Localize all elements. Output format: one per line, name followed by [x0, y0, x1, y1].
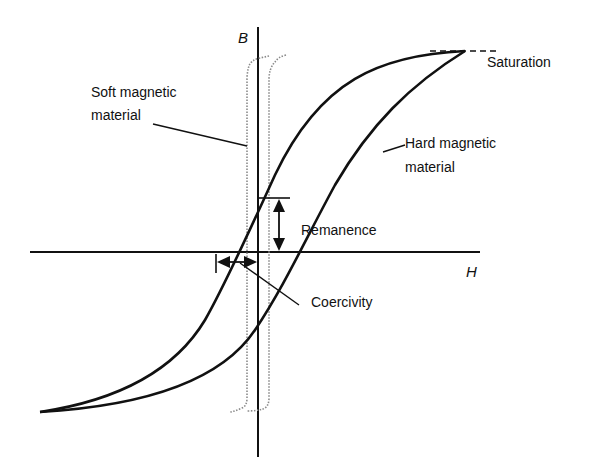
remanence-label: Remanence — [301, 222, 377, 238]
soft-material-label-line2: material — [91, 107, 141, 123]
soft-loop-left — [230, 56, 269, 412]
soft-material-leader — [153, 124, 247, 146]
remanence-arrow-down-icon — [273, 238, 285, 251]
remanence-arrow-up-icon — [273, 199, 285, 212]
b-axis-label: B — [238, 29, 248, 46]
soft-loop-right — [247, 55, 286, 411]
coercivity-arrow-right-icon — [244, 256, 257, 268]
hard-material-label-line2: material — [405, 159, 455, 175]
coercivity-label: Coercivity — [311, 294, 372, 310]
hard-loop-lower-branch — [40, 51, 465, 412]
hysteresis-diagram: B H Saturation Soft magnetic material Ha… — [0, 0, 602, 473]
soft-material-label-line1: Soft magnetic — [91, 84, 177, 100]
hard-material-leader — [383, 145, 405, 152]
saturation-label: Saturation — [487, 54, 551, 70]
coercivity-arrow-left-icon — [217, 256, 230, 268]
h-axis-label: H — [466, 263, 477, 280]
hard-material-label-line1: Hard magnetic — [405, 135, 496, 151]
hard-loop-upper-branch — [40, 51, 465, 412]
